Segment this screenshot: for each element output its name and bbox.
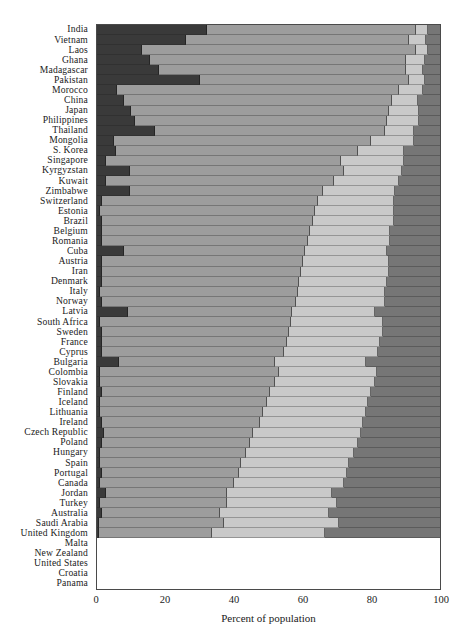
- bar-segment-4: [385, 287, 440, 297]
- bar-segment-3: [323, 186, 395, 196]
- bar-segment-4: [419, 116, 440, 126]
- bar-row: [97, 166, 440, 176]
- bar-segment-4: [347, 468, 440, 478]
- bar-segment-2: [102, 196, 318, 206]
- bar-segment-3: [284, 347, 378, 357]
- bar-segment-4: [394, 216, 440, 226]
- bar-row: [97, 508, 440, 518]
- bar-row: [97, 548, 440, 558]
- bar-segment-4: [337, 498, 440, 508]
- bar-row: [97, 528, 440, 538]
- bar-segment-2: [106, 176, 334, 186]
- bar-segment-2: [102, 256, 303, 266]
- bar-segment-4: [414, 136, 440, 146]
- y-axis-label-panama: Panama: [0, 577, 92, 588]
- bar-segment-1: [97, 75, 200, 85]
- bar-segment-1: [97, 176, 106, 186]
- bar-segment-4: [390, 236, 440, 246]
- bar-segment-4: [375, 307, 440, 317]
- bar-segment-4: [423, 85, 440, 95]
- bar-segment-4: [414, 126, 440, 136]
- bar-segment-2: [102, 387, 270, 397]
- bar-row: [97, 206, 440, 216]
- bar-segment-4: [390, 226, 440, 236]
- bar-segment-3: [260, 417, 363, 427]
- bar-segment-3: [334, 176, 399, 186]
- bar-segment-2: [102, 508, 220, 518]
- bar-segment-2: [131, 106, 388, 116]
- bar-segment-2: [99, 528, 212, 538]
- bar-row: [97, 407, 440, 417]
- bar-row: [97, 498, 440, 508]
- bar-segment-2: [100, 317, 290, 327]
- bar-segment-3: [313, 216, 394, 226]
- bar-segment-4: [378, 347, 440, 357]
- bar-segment-2: [100, 478, 234, 488]
- bar-segment-2: [106, 156, 341, 166]
- bar-segment-3: [279, 367, 377, 377]
- bar-segment-3: [292, 307, 374, 317]
- bar-row: [97, 327, 440, 337]
- bar-segment-3: [385, 126, 414, 136]
- bar-segment-3: [253, 428, 361, 438]
- bar-row: [97, 317, 440, 327]
- bar-segment-1: [97, 85, 117, 95]
- bar-segment-3: [212, 528, 325, 538]
- bar-segment-2: [102, 438, 249, 448]
- bar-segment-1: [97, 307, 128, 317]
- bar-segment-3: [371, 136, 414, 146]
- bar-segment-4: [375, 377, 440, 387]
- bar-segment-2: [99, 518, 224, 528]
- bar-segment-3: [358, 146, 404, 156]
- bar-segment-4: [366, 407, 440, 417]
- bar-row: [97, 267, 440, 277]
- bar-segment-4: [329, 508, 440, 518]
- bar-segment-2: [102, 297, 296, 307]
- bar-segment-1: [97, 116, 135, 126]
- bar-segment-2: [102, 417, 260, 427]
- bar-row: [97, 65, 440, 75]
- bar-row: [97, 287, 440, 297]
- bar-segment-4: [404, 146, 440, 156]
- x-tick-label-0: 0: [93, 594, 98, 606]
- bar-segment-3: [303, 256, 389, 266]
- bar-segment-2: [135, 116, 387, 126]
- x-tick-label-80: 80: [367, 594, 378, 606]
- bar-segment-4: [363, 417, 440, 427]
- bar-segment-3: [389, 106, 420, 116]
- bar-segment-4: [387, 277, 440, 287]
- stacked-bar-chart: IndiaVietnamLaosGhanaMadagascarPakistanM…: [0, 0, 459, 643]
- bar-segment-4: [385, 297, 440, 307]
- bar-segment-3: [308, 236, 390, 246]
- bar-row: [97, 106, 440, 116]
- bar-row: [97, 246, 440, 256]
- bar-segment-4: [423, 65, 440, 75]
- bar-row: [97, 478, 440, 488]
- bar-segment-1: [97, 136, 114, 146]
- bar-segment-2: [102, 277, 299, 287]
- bar-segment-1: [97, 488, 106, 498]
- bar-segment-3: [406, 65, 423, 75]
- bar-row: [97, 126, 440, 136]
- bar-segment-1: [97, 156, 106, 166]
- bar-segment-2: [186, 35, 409, 45]
- x-tick-label-60: 60: [298, 594, 309, 606]
- bar-row: [97, 438, 440, 448]
- bar-segment-1: [97, 45, 142, 55]
- bar-segment-4: [366, 357, 440, 367]
- bar-row: [97, 307, 440, 317]
- bar-row: [97, 337, 440, 347]
- bar-row: [97, 428, 440, 438]
- bar-row: [97, 578, 440, 588]
- bar-segment-1: [97, 25, 207, 35]
- bar-segment-3: [291, 317, 384, 327]
- bar-segment-2: [102, 236, 308, 246]
- bar-segment-4: [358, 438, 440, 448]
- bar-row: [97, 468, 440, 478]
- bar-segment-4: [402, 166, 440, 176]
- bar-segment-2: [150, 55, 406, 65]
- bar-row: [97, 136, 440, 146]
- bar-row: [97, 458, 440, 468]
- x-tick-label-100: 100: [433, 594, 449, 606]
- bar-segment-2: [114, 136, 371, 146]
